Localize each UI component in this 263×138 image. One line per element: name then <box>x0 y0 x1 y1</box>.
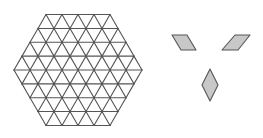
grid-line <box>62 84 70 98</box>
grid-line <box>54 28 62 42</box>
grid-line <box>46 98 54 112</box>
grid-line <box>54 84 62 98</box>
grid-line <box>46 70 54 84</box>
grid-line <box>86 84 94 98</box>
grid-line <box>86 112 94 126</box>
grid-line <box>30 98 38 112</box>
grid-line <box>110 15 118 29</box>
grid-line <box>86 28 94 42</box>
grid-line <box>86 70 94 84</box>
grid-line <box>126 84 134 98</box>
grid-line <box>46 84 54 98</box>
grid-line <box>118 70 126 84</box>
grid-line <box>38 70 46 84</box>
grid-line <box>38 112 46 126</box>
grid-line <box>126 56 134 70</box>
grid-line <box>86 42 94 56</box>
grid-line <box>102 70 110 84</box>
grid-line <box>46 42 54 56</box>
grid-line <box>54 56 62 70</box>
grid-line <box>78 15 86 29</box>
grid-line <box>126 42 134 56</box>
grid-line <box>102 15 110 29</box>
grid-line <box>94 42 102 56</box>
grid-line <box>14 56 22 70</box>
grid-line <box>62 70 70 84</box>
grid-line <box>22 84 30 98</box>
grid-line <box>46 28 54 42</box>
grid-line <box>86 98 94 112</box>
grid-line <box>118 42 126 56</box>
grid-line <box>70 56 78 70</box>
grid-line <box>102 84 110 98</box>
grid-line <box>38 28 46 42</box>
grid-line <box>78 84 86 98</box>
grid-line <box>94 98 102 112</box>
triangular-grid-hexagon <box>14 15 142 126</box>
grid-line <box>94 28 102 42</box>
grid-line <box>110 112 118 126</box>
grid-line <box>86 15 94 29</box>
grid-line <box>70 70 78 84</box>
grid-line <box>110 28 118 42</box>
grid-line <box>62 42 70 56</box>
grid-line <box>94 15 102 29</box>
grid-line <box>70 42 78 56</box>
grid-line <box>126 70 134 84</box>
grid-line <box>38 42 46 56</box>
grid-line <box>54 112 62 126</box>
figure-canvas <box>0 0 263 138</box>
grid-line <box>102 112 110 126</box>
grid-line <box>46 56 54 70</box>
grid-line <box>22 70 30 84</box>
grid-line <box>110 70 118 84</box>
rhombus-right-leaning <box>172 35 196 50</box>
grid-line <box>118 56 126 70</box>
grid-line <box>70 112 78 126</box>
grid-line <box>22 56 30 70</box>
grid-line <box>54 98 62 112</box>
grid-line <box>30 28 38 42</box>
grid-line <box>94 56 102 70</box>
grid-line <box>78 28 86 42</box>
grid-line <box>46 112 54 126</box>
grid-line <box>30 56 38 70</box>
grid-line <box>62 15 70 29</box>
grid-line <box>70 15 78 29</box>
grid-line <box>110 84 118 98</box>
grid-line <box>134 70 142 84</box>
grid-line <box>94 70 102 84</box>
grid-line <box>38 56 46 70</box>
grid-line <box>22 42 30 56</box>
grid-line <box>78 70 86 84</box>
grid-line <box>110 98 118 112</box>
grid-line <box>30 70 38 84</box>
grid-line <box>110 42 118 56</box>
grid-line <box>30 84 38 98</box>
grid-line <box>118 98 126 112</box>
grid-line <box>62 98 70 112</box>
grid-line <box>102 28 110 42</box>
grid-line <box>70 98 78 112</box>
diagram-svg <box>0 0 263 138</box>
grid-line <box>30 42 38 56</box>
grid-line <box>118 84 126 98</box>
grid-line <box>54 42 62 56</box>
grid-line <box>134 56 142 70</box>
grid-line <box>70 84 78 98</box>
grid-line <box>62 56 70 70</box>
rhombus-tiles <box>172 35 250 101</box>
grid-line <box>54 15 62 29</box>
grid-line <box>70 28 78 42</box>
grid-line <box>38 15 46 29</box>
grid-line <box>78 42 86 56</box>
grid-line <box>54 70 62 84</box>
rhombus-left-leaning <box>222 35 250 50</box>
grid-line <box>102 42 110 56</box>
grid-line <box>118 28 126 42</box>
grid-line <box>46 15 54 29</box>
grid-line <box>78 112 86 126</box>
grid-line <box>38 84 46 98</box>
grid-line <box>102 98 110 112</box>
grid-line <box>94 84 102 98</box>
